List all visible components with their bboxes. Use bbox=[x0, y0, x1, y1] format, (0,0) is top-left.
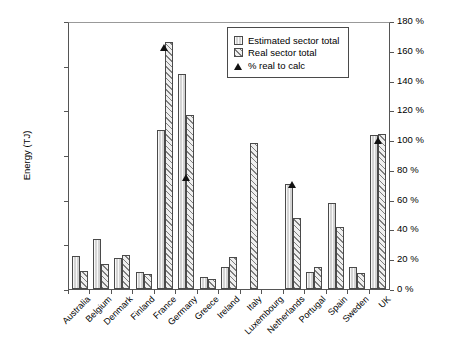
y-axis-right-tickmark bbox=[390, 141, 394, 142]
bar-estimated bbox=[72, 256, 80, 289]
x-axis-label: Greece bbox=[197, 292, 218, 354]
bar-estimated bbox=[285, 184, 293, 289]
y-axis-right-tick-label: 160 % bbox=[397, 45, 424, 56]
legend-label-estimated: Estimated sector total bbox=[248, 35, 339, 46]
bar-pair bbox=[69, 23, 90, 289]
bar-estimated bbox=[178, 74, 186, 289]
bar-estimated bbox=[328, 203, 336, 289]
legend-swatch-real-icon bbox=[234, 48, 243, 57]
bar-group bbox=[69, 23, 90, 289]
bar-pair bbox=[154, 23, 175, 289]
bar-group bbox=[176, 23, 197, 289]
bar-real bbox=[144, 274, 152, 289]
bar-estimated bbox=[306, 272, 314, 289]
legend-swatch-triangle-icon bbox=[234, 61, 243, 70]
bar-real bbox=[186, 115, 194, 289]
bar-pair bbox=[176, 23, 197, 289]
y-axis-right-tickmark bbox=[390, 52, 394, 53]
bar-estimated bbox=[157, 130, 165, 289]
percent-marker-triangle-icon bbox=[182, 174, 190, 181]
legend-item-percent: % real to calc bbox=[234, 60, 339, 71]
bar-real bbox=[314, 267, 322, 289]
bar-pair bbox=[368, 23, 389, 289]
percent-marker-triangle-icon bbox=[160, 44, 168, 51]
bar-pair bbox=[197, 23, 218, 289]
y-axis-right-tick-label: 0 % bbox=[397, 283, 413, 294]
x-axis-label: Sweden bbox=[347, 292, 368, 354]
bar-real bbox=[378, 134, 386, 289]
y-axis-right-tickmark bbox=[390, 111, 394, 112]
bar-real bbox=[229, 257, 237, 289]
y-axis-right-tickmark bbox=[390, 290, 394, 291]
bar-real bbox=[250, 143, 258, 289]
x-axis-label-text: Ireland bbox=[216, 294, 243, 321]
y-axis-right-tick-label: 20 % bbox=[397, 253, 419, 264]
bar-group bbox=[197, 23, 218, 289]
y-axis-right-tickmark bbox=[390, 260, 394, 261]
chart-legend: Estimated sector total Real sector total… bbox=[227, 27, 349, 78]
bar-group bbox=[90, 23, 111, 289]
y-axis-right-tick-label: 60 % bbox=[397, 194, 419, 205]
x-axis-label: Denmark bbox=[111, 292, 132, 354]
legend-swatch-estimated-icon bbox=[234, 36, 243, 45]
bar-estimated bbox=[349, 267, 357, 289]
x-axis-label: Spain bbox=[326, 292, 347, 354]
bar-estimated bbox=[114, 258, 122, 289]
y-axis-right-tick-label: 40 % bbox=[397, 223, 419, 234]
bar-pair bbox=[346, 23, 367, 289]
bar-estimated bbox=[221, 267, 229, 289]
bar-real bbox=[208, 279, 216, 289]
x-axis-label: Ireland bbox=[218, 292, 239, 354]
bar-group bbox=[154, 23, 175, 289]
bar-estimated bbox=[136, 272, 144, 289]
bar-group bbox=[368, 23, 389, 289]
y-axis-right-tickmark bbox=[390, 171, 394, 172]
percent-marker-triangle-icon bbox=[374, 137, 382, 144]
bar-real bbox=[122, 255, 130, 289]
bar-estimated bbox=[370, 135, 378, 289]
x-axis-labels: AustraliaBelgiumDenmarkFinlandFranceGerm… bbox=[68, 292, 390, 354]
y-axis-title: Energy (TJ) bbox=[21, 86, 32, 226]
bar-real bbox=[80, 271, 88, 289]
x-axis-label-text: Finland bbox=[128, 294, 156, 322]
x-axis-label: Finland bbox=[132, 292, 153, 354]
bar-pair bbox=[90, 23, 111, 289]
bar-real bbox=[336, 227, 344, 289]
bar-group bbox=[112, 23, 133, 289]
y-axis-right-tickmark bbox=[390, 22, 394, 23]
legend-item-real: Real sector total bbox=[234, 47, 339, 58]
x-axis-label: Portugal bbox=[304, 292, 325, 354]
bar-pair bbox=[112, 23, 133, 289]
y-axis-right-tick-label: 100 % bbox=[397, 134, 424, 145]
chart-container: Energy (TJ) 050 000100 000150 000200 000… bbox=[0, 0, 457, 355]
y-axis-right-tickmark bbox=[390, 82, 394, 83]
bar-real bbox=[293, 218, 301, 289]
legend-label-percent: % real to calc bbox=[248, 60, 305, 71]
bar-real bbox=[357, 273, 365, 289]
x-axis-label: Australia bbox=[68, 292, 89, 354]
y-axis-right-tick-label: 120 % bbox=[397, 104, 424, 115]
bar-estimated bbox=[200, 277, 208, 289]
x-axis-label-text: Greece bbox=[193, 294, 221, 322]
legend-item-estimated: Estimated sector total bbox=[234, 35, 339, 46]
y-axis-right-tickmark bbox=[390, 230, 394, 231]
x-axis-label: Germany bbox=[175, 292, 196, 354]
y-axis-right-tickmark bbox=[390, 201, 394, 202]
bar-real bbox=[101, 264, 109, 289]
y-axis-right-tick-label: 80 % bbox=[397, 164, 419, 175]
bar-estimated bbox=[93, 239, 101, 289]
bar-pair bbox=[133, 23, 154, 289]
legend-label-real: Real sector total bbox=[248, 47, 317, 58]
bar-group bbox=[133, 23, 154, 289]
percent-marker-triangle-icon bbox=[288, 181, 296, 188]
x-axis-label: UK bbox=[369, 292, 390, 354]
x-axis-label-text: UK bbox=[376, 294, 392, 310]
y-axis-right-tick-label: 180 % bbox=[397, 15, 424, 26]
y-axis-right-tick-label: 140 % bbox=[397, 75, 424, 86]
x-axis-label: Netherlands bbox=[283, 292, 304, 354]
bar-group bbox=[346, 23, 367, 289]
bar-real bbox=[165, 42, 173, 289]
